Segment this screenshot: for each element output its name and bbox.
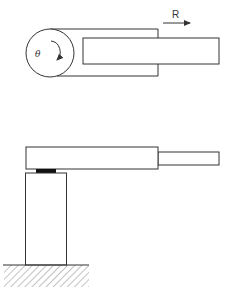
ground-hatch (4, 265, 89, 287)
support-column (26, 173, 67, 265)
rotating-base-circle (26, 29, 74, 77)
r-label: R (172, 9, 179, 20)
side-view (3, 147, 219, 287)
robot-arm-diagram: θ R (0, 0, 233, 290)
top-view: θ R (26, 9, 219, 77)
arm-housing-side (26, 147, 158, 169)
telescoping-arm-side (158, 152, 219, 165)
telescoping-arm-top (83, 38, 219, 64)
joint-pad (36, 169, 56, 173)
theta-label: θ (35, 49, 41, 59)
